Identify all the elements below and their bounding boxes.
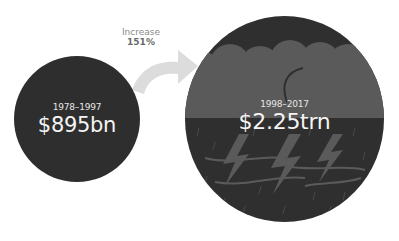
increase-label: Increase — [118, 27, 164, 37]
period-label: 1998–2017 — [185, 99, 384, 109]
loss-value: $895bn — [14, 113, 140, 137]
period-label: 1978–1997 — [14, 102, 140, 112]
period-1998-2017-bubble: 1998–2017 $2.25trn — [185, 16, 384, 222]
increase-percentage: 151% — [118, 37, 164, 47]
loss-value: $2.25trn — [185, 109, 384, 134]
period-1978-1997-bubble: 1978–1997 $895bn — [14, 56, 140, 182]
